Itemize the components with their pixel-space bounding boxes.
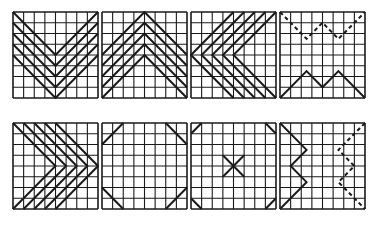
grid-svg <box>12 122 99 210</box>
grid-panel-left-chevrons <box>190 11 275 97</box>
grid-panel-zigzag-horizontal <box>279 11 364 97</box>
solid-path <box>265 123 276 134</box>
grid-svg <box>101 11 188 99</box>
solid-path <box>191 198 202 209</box>
grid-panel-center-x <box>190 122 275 208</box>
grid-panel-right-chevrons <box>12 122 97 208</box>
grid-svg <box>101 122 188 210</box>
grid-panel-zigzag-vertical <box>279 122 364 208</box>
grid-svg <box>279 11 366 99</box>
grid-svg <box>12 11 99 99</box>
grid-panel-caret-chevrons <box>101 11 186 97</box>
grid-svg <box>190 11 277 99</box>
grid-panel-v-chevrons <box>12 11 97 97</box>
solid-path <box>191 123 202 134</box>
grid-svg <box>279 122 366 210</box>
grid-panel-corner-diagonals <box>101 122 186 208</box>
solid-path <box>265 198 276 209</box>
grid-svg <box>190 122 277 210</box>
